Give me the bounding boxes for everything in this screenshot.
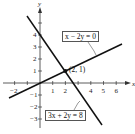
svg-text:−2: −2 — [30, 103, 38, 111]
intersection-point-marker — [63, 69, 67, 73]
svg-text:−3: −3 — [30, 115, 38, 123]
svg-text:2: 2 — [64, 87, 68, 95]
intersection-label: (2, 1) — [69, 65, 85, 74]
label-line-3x-plus-2y: 3x + 2y = 8 — [45, 110, 86, 121]
x-axis-label: x — [131, 80, 135, 88]
label-line-x-minus-2y: x − 2y = 0 — [62, 31, 99, 42]
svg-text:1: 1 — [51, 87, 55, 95]
svg-text:3: 3 — [33, 43, 37, 51]
y-axis-label: y — [37, 0, 42, 8]
x-axis-arrow-icon — [125, 81, 131, 85]
svg-text:2: 2 — [33, 55, 37, 63]
svg-text:6: 6 — [115, 87, 119, 95]
svg-text:4: 4 — [89, 87, 93, 95]
svg-text:−1: −1 — [30, 91, 38, 99]
svg-text:1: 1 — [33, 67, 37, 75]
svg-text:5: 5 — [102, 87, 106, 95]
svg-text:4: 4 — [33, 31, 37, 39]
